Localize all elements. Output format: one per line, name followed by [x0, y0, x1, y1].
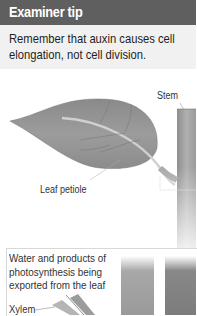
vessel-left: [121, 256, 154, 315]
examiner-tip-title: Examiner tip: [9, 4, 82, 20]
leaf-diagram: [0, 80, 196, 250]
examiner-tip-text: Remember that auxin causes cell elongati…: [9, 31, 184, 63]
leaf-blade: [10, 99, 157, 169]
xylem-label: Xylem: [9, 303, 35, 315]
leaf-petiole-label: Leaf petiole: [40, 184, 87, 195]
vessel-right: [165, 256, 196, 315]
xylem-small-vessels: [52, 294, 95, 315]
stem-label: Stem: [157, 90, 178, 101]
